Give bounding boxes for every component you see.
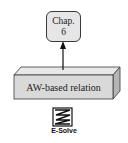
chapter-node-line2: 6 xyxy=(61,27,66,38)
relation-box-top-face xyxy=(14,67,120,75)
chapter-node-line1: Chap. xyxy=(52,16,74,27)
arrow-up-icon xyxy=(60,41,66,49)
e-solve-label: E-Solve xyxy=(40,127,88,134)
e-solve-icon xyxy=(53,108,72,126)
chapter-node: Chap. 6 xyxy=(46,11,81,42)
relation-box-label: AW-based relation xyxy=(14,76,113,99)
